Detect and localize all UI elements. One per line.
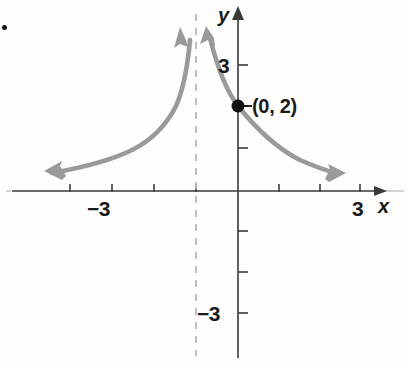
left-branch-up-arrow-icon <box>174 27 188 48</box>
x-axis-label: x <box>378 196 389 216</box>
y-axis-arrow-icon <box>232 6 244 20</box>
right-branch-up-arrow-icon <box>200 26 215 46</box>
point-annotation-label: (0, 2) <box>252 96 297 116</box>
y-axis-label: y <box>218 5 229 25</box>
x-tick-label-3: 3 <box>352 198 363 219</box>
point-marker-0-2 <box>232 100 245 113</box>
y-tick-label-3: 3 <box>218 55 229 76</box>
x-tick-label-neg3: −3 <box>87 198 110 219</box>
right-branch-right-arrow-icon <box>325 164 346 182</box>
y-tick-label-neg3: −3 <box>197 303 220 324</box>
curve-left-branch <box>44 27 190 180</box>
graph-figure: y x 3 −3 −3 3 (0, 2) <box>0 0 408 368</box>
x-axis <box>6 186 404 196</box>
y-axis <box>232 6 244 358</box>
